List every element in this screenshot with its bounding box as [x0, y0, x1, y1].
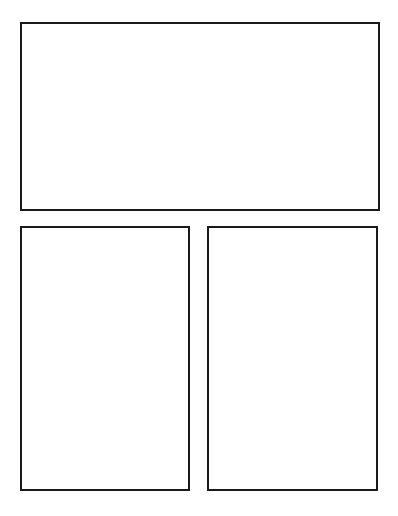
bottom-right-panel [207, 226, 378, 491]
bottom-left-panel [20, 226, 190, 491]
top-panel [20, 22, 380, 211]
